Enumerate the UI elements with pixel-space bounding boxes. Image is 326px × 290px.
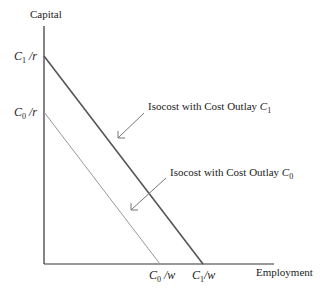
isocost-diagram [0,0,326,290]
y-intercept-c1: C1 /r [14,49,37,65]
y-axis-label: Capital [30,8,62,20]
annotation-c1: Isocost with Cost Outlay C1 [148,100,271,115]
x-axis-label: Employment [256,266,313,278]
arrow-c0 [131,178,166,210]
isocost-line-c0 [44,112,160,264]
annotation-c0: Isocost with Cost Outlay C0 [170,166,293,181]
arrow-c1 [118,113,144,138]
y-intercept-c0: C0 /r [14,105,37,121]
x-intercept-c1: C1/w [192,268,215,284]
x-intercept-c0: C0 /w [149,268,175,284]
isocost-line-c1 [44,56,203,264]
